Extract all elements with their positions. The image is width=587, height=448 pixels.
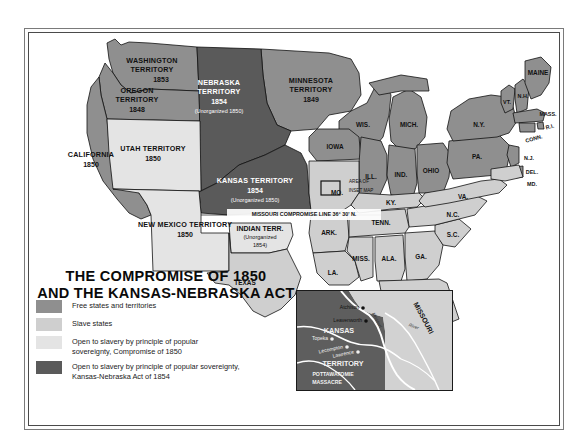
region-connecticut — [519, 123, 535, 132]
label-kansas-year: 1854 — [247, 187, 263, 194]
inset-city-label-atchison: Atchison — [340, 304, 359, 310]
label-delaware: DEL. — [526, 169, 539, 175]
label-nebraska-year: 1854 — [211, 98, 227, 105]
map-title-block: THE COMPROMISE OF 1850 AND THE KANSAS-NE… — [18, 268, 314, 301]
legend-swatch-slave — [36, 318, 62, 331]
label-mississippi: MISS. — [352, 255, 370, 262]
label-massachusetts: MASS. — [539, 111, 557, 117]
label-georgia: GA. — [415, 253, 427, 260]
label-kentucky: KY. — [386, 199, 396, 206]
label-rhode-island: R.I. — [545, 122, 555, 130]
label-california-year: 1850 — [83, 161, 99, 168]
label-michigan: MICH. — [400, 121, 418, 128]
inset-city-dot-atchison — [361, 306, 365, 310]
label-utah-territory: UTAH TERRITORY — [120, 144, 185, 153]
label-washington-territory-2: TERRITORY — [131, 65, 174, 74]
label-arkansas: ARK. — [321, 229, 337, 236]
label-california: CALIFORNIA — [68, 150, 114, 159]
inset-label-pottawatomie: POTTAWATOMIE — [312, 371, 354, 377]
label-north-carolina: N.C. — [447, 211, 460, 218]
label-oregon-year: 1848 — [129, 106, 145, 113]
label-connecticut: CONN. — [525, 133, 544, 144]
inset-map: × Atchison Leavenworth Topeka Lecompton … — [296, 290, 453, 391]
label-indiana: IND. — [395, 171, 408, 178]
label-nebraska-unorganized: (Unorganized 1850) — [195, 108, 244, 114]
legend-item-slave: Slave states — [36, 318, 316, 331]
label-missouri: MO. — [331, 189, 343, 196]
legend-swatch-free — [36, 300, 62, 313]
label-minnesota-year: 1849 — [303, 96, 319, 103]
label-indian-unorganized-2: 1854) — [253, 242, 267, 248]
inset-city-dot-lawrence — [356, 350, 360, 354]
label-nebraska-territory: NEBRASKA — [198, 78, 240, 87]
legend-label-free: Free states and territories — [72, 300, 156, 311]
label-kansas-unorganized: (Unorganized 1850) — [231, 197, 280, 203]
map-page: .free{fill:#8f8f8f;stroke:#111;stroke-wi… — [0, 0, 587, 448]
region-maine — [525, 57, 551, 99]
label-nebraska-territory-2: TERRITORY — [198, 87, 241, 96]
label-maine: MAINE — [528, 69, 549, 76]
region-michigan-up — [369, 75, 429, 95]
label-indian-territory: INDIAN TERR. — [236, 225, 283, 232]
label-alabama: ALA. — [382, 255, 397, 262]
label-washington-year: 1853 — [153, 76, 169, 83]
inset-map-svg: × Atchison Leavenworth Topeka Lecompton … — [297, 291, 452, 390]
legend-item-free: Free states and territories — [36, 300, 316, 313]
inset-city-dot-topeka — [330, 337, 334, 341]
label-wisconsin: WIS. — [356, 121, 370, 128]
label-utah-year: 1850 — [145, 155, 161, 162]
label-kansas-territory: KANSAS TERRITORY — [217, 176, 294, 185]
legend-swatch-kansas-nebraska-1854 — [36, 361, 62, 374]
label-indian-unorganized: (Unorganized — [243, 234, 276, 240]
legend-label-popular-sovereignty-1850: Open to slavery by principle of popular … — [72, 336, 198, 356]
region-rhode-island — [537, 122, 544, 129]
label-inset-callout-line1: AREA OF — [349, 179, 369, 184]
label-new-mexico-year: 1850 — [177, 231, 193, 238]
legend-label-kansas-nebraska-1854: Open to slavery by principle of popular … — [72, 361, 239, 381]
label-oregon-territory: OREGON — [120, 86, 153, 95]
region-new-jersey — [507, 145, 519, 167]
map-legend: Free states and territories Slave states… — [36, 300, 316, 386]
map-title-line2: AND THE KANSAS-NEBRASKA ACT — [18, 285, 314, 301]
inset-city-dot-leavenworth — [364, 319, 368, 323]
inset-city-dot-lecompton — [345, 345, 349, 349]
label-south-carolina: S.C. — [447, 231, 460, 238]
label-iowa: IOWA — [326, 143, 343, 150]
label-minnesota-territory-2: TERRITORY — [290, 85, 333, 94]
inset-city-label-topeka: Topeka — [312, 335, 328, 341]
legend-item-popular-sovereignty-1850: Open to slavery by principle of popular … — [36, 336, 316, 356]
legend-label-slave: Slave states — [72, 318, 112, 329]
label-vermont: VT. — [503, 99, 511, 105]
label-new-jersey: N.J. — [524, 155, 534, 161]
label-louisiana: LA. — [328, 269, 339, 276]
inset-label-kansas: KANSAS — [324, 326, 355, 335]
label-ohio: OHIO — [423, 167, 439, 174]
label-new-mexico-territory: NEW MEXICO TERRITORY — [138, 220, 232, 229]
label-new-york: N.Y. — [473, 121, 485, 128]
label-oregon-territory-2: TERRITORY — [116, 95, 159, 104]
label-pennsylvania: PA. — [472, 153, 482, 160]
legend-swatch-popular-sovereignty-1850 — [36, 336, 62, 349]
label-maryland: MD. — [527, 181, 537, 187]
map-title-line1: THE COMPROMISE OF 1850 — [18, 268, 314, 284]
label-missouri-compromise-line: MISSOURI COMPROMISE LINE 36° 30' N. — [252, 211, 357, 217]
label-inset-callout-line2: INSET MAP — [349, 188, 374, 193]
label-washington-territory: WASHINGTON — [126, 56, 177, 65]
label-minnesota-territory: MINNESOTA — [289, 76, 333, 85]
label-virginia: VA. — [458, 193, 468, 200]
label-new-hampshire: N.H. — [518, 93, 529, 99]
inset-city-label-leavenworth: Leavenworth — [333, 317, 362, 323]
inset-label-massacre: MASSACRE — [312, 379, 342, 385]
inset-label-territory: TERRITORY — [322, 359, 363, 368]
legend-item-kansas-nebraska-1854: Open to slavery by principle of popular … — [36, 361, 316, 381]
